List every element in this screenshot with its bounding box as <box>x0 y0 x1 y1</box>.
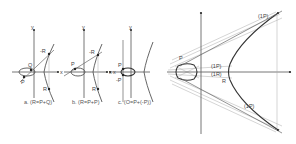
panel-b-point-p <box>74 68 76 70</box>
panel-a-point-neg-r <box>48 53 50 55</box>
panel-a-point-r <box>48 88 50 90</box>
panel-c-label-p: P <box>118 62 122 68</box>
large-y-arrow-icon <box>200 12 202 14</box>
panel-c-label-neg-p: -P <box>116 77 122 83</box>
panel-a-label-q: Q <box>28 62 33 68</box>
panel-a-y-label: y <box>31 24 34 30</box>
large-x-arrow-icon <box>289 71 291 73</box>
panel-b: y x P -R R b. (R=P+P) <box>64 24 112 105</box>
panel-c-x-label: x <box>113 69 116 75</box>
large-lower-secant <box>180 78 282 133</box>
large-diagram: P (1P) (1P) (1R) R (1P) <box>167 11 291 134</box>
panel-b-label-r: R <box>92 86 96 92</box>
panel-b-label-neg-r: -R <box>89 49 95 55</box>
panel-b-point-neg-r <box>97 54 99 56</box>
panel-a-point-q <box>30 69 32 71</box>
large-label-bottom-1p: (1P) <box>244 103 255 109</box>
panel-a-x-label: x <box>60 69 63 75</box>
panel-a-point-p <box>23 76 25 78</box>
large-label-p: P <box>179 55 183 61</box>
elliptic-curve-figure: y x P Q -R R a. (R=P+Q) y x P -R <box>0 0 296 144</box>
large-point-top <box>277 12 279 14</box>
large-label-mid-1p: (1P) <box>211 63 222 69</box>
large-point-bottom <box>277 129 279 131</box>
large-upper-secant <box>180 11 282 66</box>
large-label-top-1p: (1P) <box>258 13 269 19</box>
large-label-mid-1r: (1R) <box>211 71 222 77</box>
panel-b-y-label: y <box>82 24 85 30</box>
panel-a: y x P Q -R R a. (R=P+Q) <box>12 24 63 105</box>
panel-c-x-arrow-icon <box>109 71 111 73</box>
panel-c-caption: c. (O=P+(-P)) <box>118 99 151 105</box>
panel-c-point-p <box>122 68 124 70</box>
panel-a-label-p: P <box>21 79 25 85</box>
panel-b-label-p: P <box>71 61 75 67</box>
panel-b-caption: b. (R=P+P) <box>72 99 100 105</box>
panel-b-point-r <box>97 88 99 90</box>
panel-a-label-r: R <box>43 86 47 92</box>
panel-b-x-arrow-icon <box>106 71 108 73</box>
panel-c-y-label: y <box>129 24 132 30</box>
panel-a-x-arrow-icon <box>57 71 59 73</box>
panel-c-point-neg-p <box>122 74 124 76</box>
panel-a-label-neg-r: -R <box>40 48 46 54</box>
panel-a-caption: a. (R=P+Q) <box>24 99 52 105</box>
panel-c: y x P -P c. (O=P+(-P)) <box>109 24 153 105</box>
large-label-r: R <box>222 78 226 84</box>
